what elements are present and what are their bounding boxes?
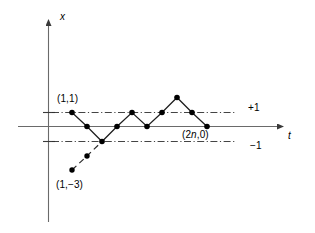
data-point (144, 124, 150, 130)
plus-one-tick-label: +1 (248, 103, 260, 113)
data-point (69, 167, 74, 172)
minus-one-tick-label: −1 (250, 141, 262, 151)
data-point (84, 124, 90, 130)
data-point (159, 110, 165, 116)
y-axis-label: x (60, 12, 65, 22)
data-point (114, 124, 120, 130)
lower-start-label: (1,−3) (56, 180, 83, 190)
reflected-prefix-path-group (69, 142, 102, 173)
data-point (69, 110, 75, 116)
data-point (189, 110, 195, 116)
data-point (99, 139, 105, 145)
figure-container: x t +1 −1 (1,1) (2n,0) (1,−3) (0, 0, 315, 233)
end-point-label-suffix: ,0) (197, 129, 209, 140)
t-axis-label: t (288, 131, 291, 141)
data-point (174, 95, 180, 101)
end-point-label: (2n,0) (182, 130, 209, 140)
data-point (129, 110, 135, 116)
start-point-label: (1,1) (57, 94, 78, 104)
end-point-label-prefix: (2 (182, 129, 191, 140)
axis-group (18, 20, 283, 222)
plot-canvas (0, 0, 315, 233)
data-point (84, 153, 89, 158)
